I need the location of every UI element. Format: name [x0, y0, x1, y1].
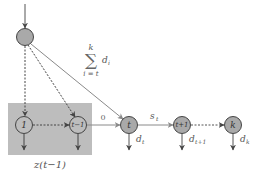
node-t: t: [121, 117, 138, 134]
edge-label-zero: 0: [100, 113, 105, 122]
node-1: 1: [16, 117, 33, 134]
node-t-plus-1: t+1: [174, 117, 191, 134]
sum-symbol: ∑: [85, 50, 97, 70]
node-t-minus-1: t−1: [70, 117, 87, 134]
edge-label-s: s: [150, 111, 155, 121]
edge-label-s-sub: t: [156, 115, 159, 122]
node-tp1-label: t+1: [175, 121, 188, 129]
node-root: [17, 29, 34, 46]
output-label-t-sub: t: [142, 138, 145, 145]
output-label-k-sub: k: [246, 138, 250, 145]
sum-lower-limit: i = t: [83, 70, 99, 78]
node-k: k: [225, 117, 242, 134]
node-tm1-label: t−1: [71, 121, 84, 129]
output-label-tp1-sub: t+1: [195, 138, 206, 145]
node-k-label: k: [230, 120, 235, 130]
sum-term-sub: i: [108, 59, 110, 66]
node-t-label: t: [127, 120, 131, 130]
node-1-label: 1: [21, 120, 27, 130]
group-box-label: z(t−1): [33, 159, 66, 170]
diagram-canvas: 1 t−1 t t+1 k z(t−1) 0 s t k ∑ i = t d i…: [0, 0, 255, 176]
